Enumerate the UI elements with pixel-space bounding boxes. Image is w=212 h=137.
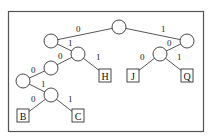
node-RL: [153, 47, 167, 61]
edge-label-root-left: 0: [76, 24, 81, 34]
leaf-Q-label: Q: [183, 71, 191, 82]
tree-diagram: 0 1 1 0 1 0 1 0 1 0 0 1 B C H J Q: [0, 0, 212, 137]
node-LRL: [44, 61, 58, 75]
internal-nodes: [16, 20, 194, 102]
edge-label-root-right: 1: [161, 24, 166, 34]
leaf-H-label: H: [101, 71, 108, 82]
edge-label-LRL-left: 0: [31, 65, 36, 75]
edge-label-RL-right: 1: [177, 52, 182, 62]
node-LR: [71, 47, 85, 61]
node-LRLL: [16, 74, 30, 88]
node-L: [44, 34, 58, 48]
edge-label-RL-left: 0: [140, 52, 145, 62]
node-R: [180, 34, 194, 48]
edge-label-LRLLR-right: 1: [68, 94, 73, 104]
leaf-nodes: B C H J Q: [17, 69, 193, 122]
edge-label-LR-right: 1: [96, 52, 101, 62]
edge-label-R-left: 0: [167, 38, 172, 48]
leaf-J-label: J: [131, 71, 135, 82]
edge-label-LRLLR-left: 0: [31, 94, 36, 104]
edge-label-L-right: 1: [68, 38, 73, 48]
leaf-B-label: B: [20, 111, 27, 122]
node-LRLLR: [44, 88, 58, 102]
edge-label-LR-left: 0: [58, 51, 63, 61]
leaf-C-label: C: [75, 111, 82, 122]
node-root: [112, 20, 126, 34]
edge-label-LRLL-right: 1: [41, 79, 46, 89]
